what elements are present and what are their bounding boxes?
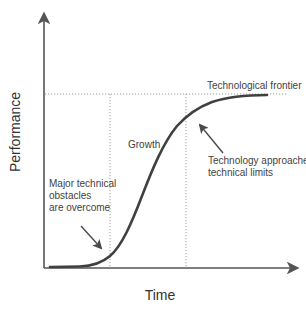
limits-label-line2: technical limits [208, 167, 273, 178]
y-axis-title: Performance [7, 92, 23, 172]
obstacles-arrow [81, 226, 101, 248]
frontier-label: Technological frontier [207, 80, 302, 91]
limits-label-line1: Technology approaches [208, 155, 306, 166]
limits-arrow [200, 125, 223, 153]
x-axis-title: Time [145, 287, 176, 303]
obstacles-label-line2: obstacles [49, 190, 91, 201]
obstacles-label-line3: are overcome [49, 202, 111, 213]
obstacles-label-line1: Major technical [49, 178, 116, 189]
s-curve-diagram: Technological frontier Growth Technology… [0, 0, 306, 310]
growth-label: Growth [128, 139, 160, 150]
